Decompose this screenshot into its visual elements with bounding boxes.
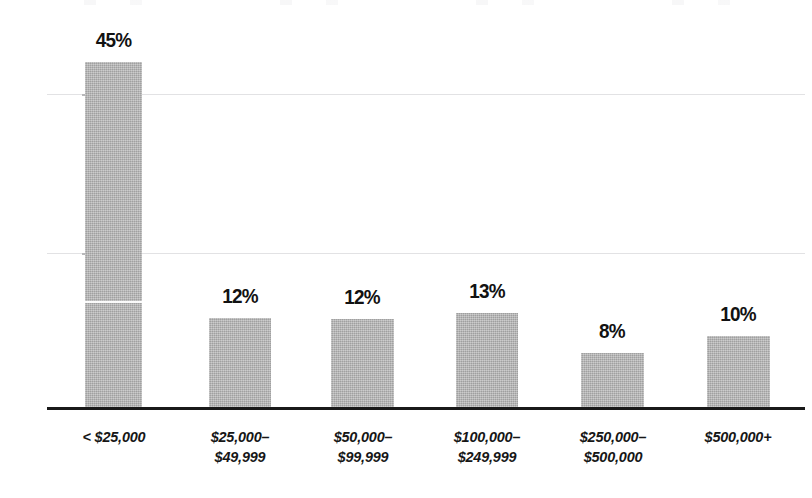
scan-artifact-line — [85, 301, 142, 303]
value-label-50000-99999: 12% — [332, 285, 391, 309]
value-label-500000-plus: 10% — [708, 302, 767, 326]
bar-500000-plus[interactable] — [707, 336, 770, 409]
gridline-40 — [47, 94, 805, 95]
bar-50000-99999[interactable] — [331, 319, 394, 409]
category-label-25000-49999: $25,000– $49,999 — [188, 427, 292, 467]
value-label-250000-500000: 8% — [582, 319, 641, 343]
x-axis-baseline — [47, 407, 805, 410]
category-label-500000-plus: $500,000+ — [686, 427, 790, 447]
value-label-25000-49999: 12% — [210, 284, 269, 308]
category-label-50000-99999: $50,000– $99,999 — [311, 427, 415, 467]
bar-chart-plot-area: 40% 20% 0% 45% 12% 12% 13% 8% 10% < $25,… — [0, 0, 812, 498]
value-label-lt-25000: 45% — [88, 28, 139, 52]
gridline-20 — [47, 253, 805, 254]
bar-25000-49999[interactable] — [209, 318, 271, 409]
bar-lt-25000[interactable] — [85, 62, 142, 409]
chart-page: 40% 20% 0% 45% 12% 12% 13% 8% 10% < $25,… — [0, 0, 812, 498]
category-label-lt-25000: < $25,000 — [62, 427, 166, 447]
bar-250000-500000[interactable] — [581, 353, 644, 409]
value-label-100000-249999: 13% — [457, 279, 516, 303]
bar-100000-249999[interactable] — [456, 313, 518, 409]
category-label-250000-500000: $250,000– $500,000 — [561, 427, 665, 467]
category-label-100000-249999: $100,000– $249,999 — [435, 427, 539, 467]
